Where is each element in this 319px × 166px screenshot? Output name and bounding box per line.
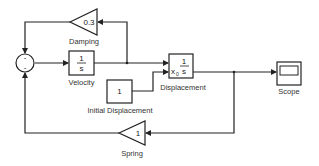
displacement-ic-port-subscript: 0: [176, 71, 179, 77]
sum-sign-bottom: -: [24, 63, 27, 72]
initial-displacement-label: Initial Displacement: [87, 106, 153, 115]
scope-label: Scope: [278, 87, 299, 96]
displacement-numerator: 1: [182, 57, 187, 66]
initial-displacement-value: 1: [117, 87, 122, 96]
spring-label: Spring: [121, 149, 143, 158]
velocity-integrator-block[interactable]: 1 s: [69, 51, 94, 75]
branch-point-displacement: [233, 71, 236, 74]
simulink-diagram: 0.3 Damping - - 1 s Velocity 1 s x 0 Dis…: [0, 0, 319, 166]
scope-screen-icon: [280, 66, 298, 75]
displacement-denominator: s: [182, 67, 186, 76]
sum-block[interactable]: - -: [16, 53, 34, 72]
displacement-integrator-block[interactable]: 1 s x 0: [169, 54, 193, 78]
spring-gain-value: 1: [136, 129, 141, 138]
signal-damping-to-sum[interactable]: [25, 22, 70, 53]
velocity-label: Velocity: [69, 78, 95, 87]
spring-gain-block[interactable]: 1: [119, 121, 145, 145]
displacement-label: Displacement: [160, 83, 206, 92]
displacement-ic-port-label: x: [171, 67, 175, 76]
initial-displacement-constant-block[interactable]: 1: [107, 80, 132, 103]
velocity-denominator: s: [80, 64, 84, 73]
damping-gain-block[interactable]: 0.3: [70, 9, 97, 35]
signal-displacement-to-spring[interactable]: [146, 72, 234, 133]
velocity-numerator: 1: [79, 54, 84, 63]
branch-point-velocity: [126, 62, 129, 65]
damping-gain-value: 0.3: [83, 18, 95, 27]
damping-label: Damping: [69, 37, 99, 46]
sum-sign-top: -: [24, 53, 27, 62]
scope-block[interactable]: [277, 62, 301, 85]
signal-velocity-to-damping[interactable]: [98, 22, 127, 63]
